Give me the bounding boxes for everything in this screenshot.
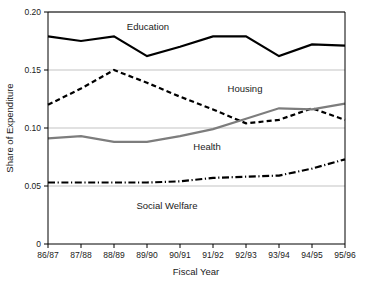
series-line-social-welfare: [48, 159, 345, 182]
series-line-education: [48, 36, 345, 56]
x-tick-label: 86/87: [37, 250, 59, 260]
x-tick-label: 92/93: [235, 250, 257, 260]
x-tick-label: 93/94: [268, 250, 290, 260]
y-tick-label: 0.10: [24, 123, 41, 133]
y-tick-label: 0.20: [24, 7, 41, 17]
series-layer: [48, 36, 345, 182]
x-tick-label: 91/92: [202, 250, 224, 260]
gridlines: [48, 12, 345, 186]
x-tick-label: 87/88: [70, 250, 92, 260]
x-tick-label: 89/90: [136, 250, 158, 260]
x-tick-label: 95/96: [334, 250, 356, 260]
y-tick-label: 0.05: [24, 181, 41, 191]
series-line-housing: [48, 70, 345, 123]
y-tick-label: 0.15: [24, 65, 41, 75]
series-label-housing: Housing: [228, 83, 263, 94]
y-tick-label: 0: [36, 239, 41, 249]
y-axis-title: Share of Expenditure: [4, 83, 15, 172]
x-tick-label: 88/89: [103, 250, 125, 260]
series-line-health: [48, 104, 345, 142]
chart-container: 00.050.100.150.2086/8787/8888/8989/9090/…: [0, 0, 377, 284]
series-label-social-welfare: Social Welfare: [136, 200, 197, 211]
series-label-health: Health: [193, 141, 220, 152]
x-tick-label: 94/95: [301, 250, 323, 260]
line-chart: 00.050.100.150.2086/8787/8888/8989/9090/…: [0, 0, 377, 284]
x-axis-title: Fiscal Year: [173, 266, 219, 277]
series-label-education: Education: [127, 21, 169, 32]
x-tick-label: 90/91: [169, 250, 191, 260]
axis-layer: [44, 12, 345, 248]
